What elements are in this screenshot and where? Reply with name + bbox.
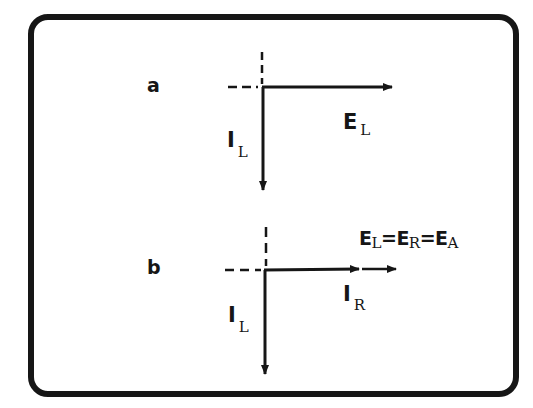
- panel-b-label: b: [147, 258, 161, 277]
- eq-E2: E: [396, 227, 408, 249]
- panel-b-IL-label: IL: [228, 305, 249, 326]
- IL-subscript-b: L: [239, 318, 249, 336]
- IL-subscript: L: [238, 143, 248, 161]
- eq-sub-L: L: [371, 234, 380, 252]
- eq-sub-R: R: [409, 234, 420, 252]
- EL-subscript: L: [360, 121, 370, 139]
- panel-b-IR-arrow: [264, 269, 359, 270]
- panel-a-EL-label: EL: [343, 112, 370, 133]
- IL-main: I: [227, 128, 235, 152]
- IR-subscript: R: [354, 296, 365, 314]
- panel-a-IL-label: IL: [227, 130, 248, 151]
- panel-b-IR-label: IR: [343, 284, 365, 305]
- eq-sub-A: A: [448, 234, 458, 252]
- phasor-diagram: [0, 0, 533, 408]
- EL-main: E: [343, 110, 357, 134]
- IR-main: I: [343, 282, 351, 306]
- eq-E3: E: [435, 227, 447, 249]
- panel-a-label: a: [147, 76, 160, 95]
- eq-E1: E: [359, 227, 371, 249]
- panel-b-equation: EL=ER=EA: [359, 229, 458, 248]
- IL-main-b: I: [228, 303, 236, 327]
- eq-equals-1: =: [381, 227, 396, 249]
- eq-equals-2: =: [420, 227, 435, 249]
